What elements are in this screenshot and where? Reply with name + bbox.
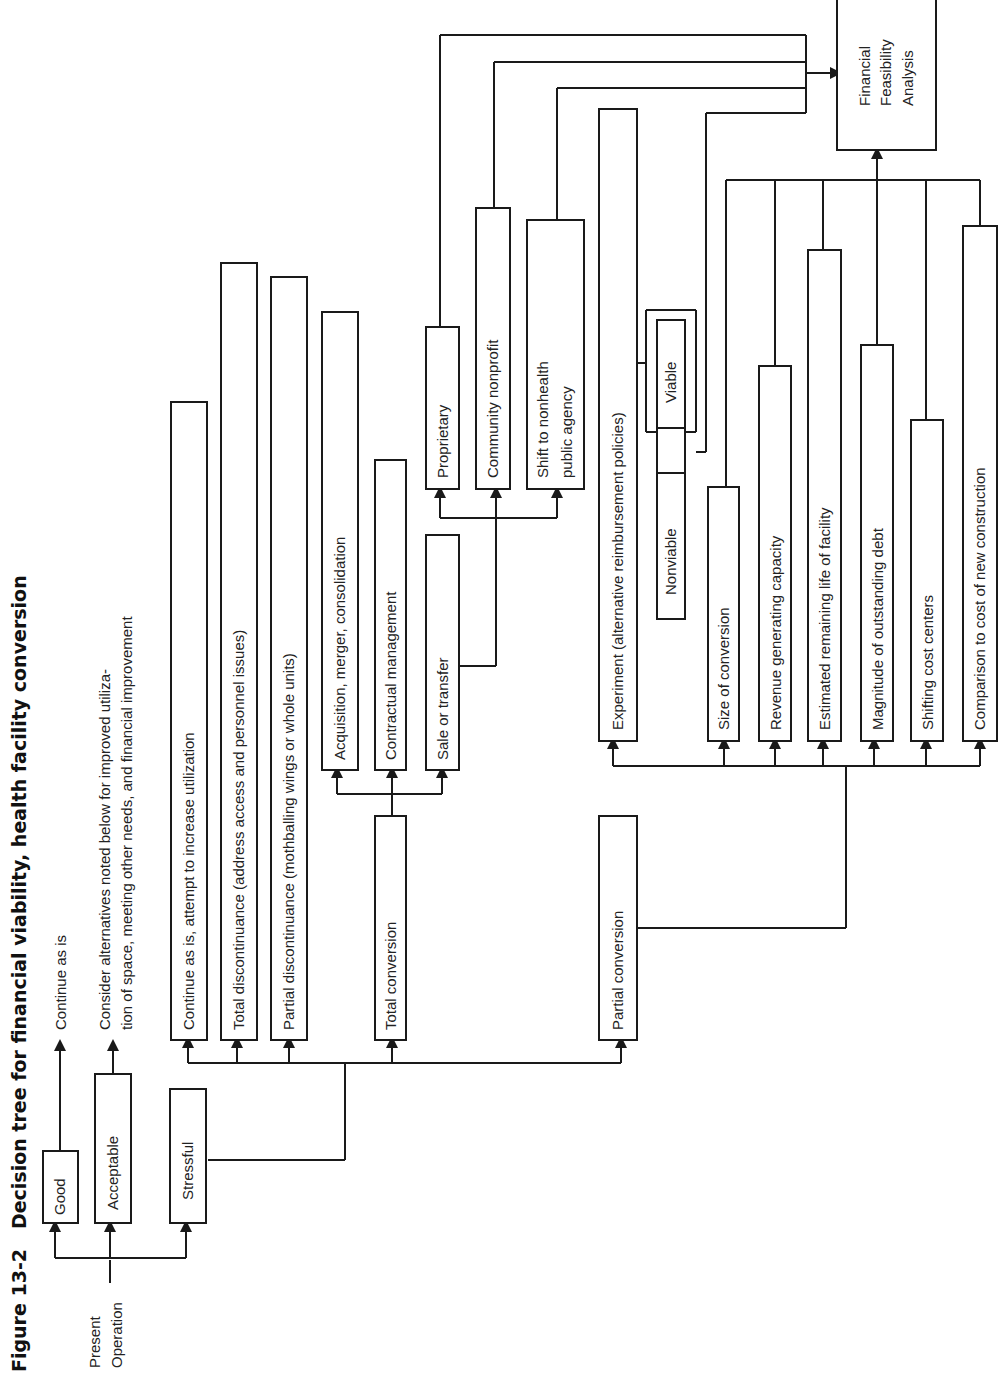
node-size-label: Size of conversion bbox=[715, 607, 733, 730]
node-experiment-label: Experiment (alternative reimbursement po… bbox=[609, 412, 627, 730]
node-cost-centers-label: Shifting cost centers bbox=[919, 595, 937, 730]
node-acquisition-label: Acquisition, merger, consolidation bbox=[331, 537, 349, 760]
node-debt-label: Magnitude of outstanding debt bbox=[869, 528, 887, 730]
node-total-discontinuance-label: Total discontinuance (address access and… bbox=[230, 630, 248, 1030]
node-community-label: Community nonprofit bbox=[484, 340, 502, 478]
acceptable-outcome-line1: Consider alternatives noted below for im… bbox=[96, 669, 114, 1030]
node-shift-label-line1: Shift to nonhealth bbox=[534, 361, 552, 478]
node-comparison-label: Comparison to cost of new construction bbox=[971, 467, 989, 730]
figure-title: Figure 13-2 Decision tree for financial … bbox=[8, 575, 30, 1372]
root-label-line1: Present bbox=[86, 1316, 104, 1368]
node-stressful-label: Stressful bbox=[179, 1142, 197, 1200]
node-continue-label: Continue as is, attempt to increase util… bbox=[180, 732, 198, 1030]
final-label-line3: Analysis bbox=[899, 50, 917, 106]
node-viable-label: Viable bbox=[662, 362, 680, 403]
node-total-conversion-label: Total conversion bbox=[382, 922, 400, 1030]
node-proprietary-label: Proprietary bbox=[434, 405, 452, 478]
final-label-line2: Feasibility bbox=[877, 39, 895, 106]
node-nonviable-label: Nonviable bbox=[662, 528, 680, 595]
node-good-label: Good bbox=[51, 1178, 69, 1215]
root-label-line2: Operation bbox=[108, 1302, 126, 1368]
node-shift-label-line2: public agency bbox=[558, 386, 576, 478]
node-sale-label: Sale or transfer bbox=[434, 657, 452, 760]
decision-tree-diagram: Figure 13-2 Decision tree for financial … bbox=[0, 0, 998, 1374]
final-label-line1: Financial bbox=[856, 46, 874, 106]
figure-caption: Decision tree for financial viability, h… bbox=[8, 575, 30, 1229]
node-acceptable-label: Acceptable bbox=[104, 1136, 122, 1210]
node-contractual-label: Contractual management bbox=[382, 592, 400, 760]
acceptable-outcome-line2: tion of space, meeting other needs, and … bbox=[118, 616, 136, 1030]
figure-number: Figure 13-2 bbox=[8, 1249, 30, 1372]
node-revenue-label: Revenue generating capacity bbox=[767, 536, 785, 730]
node-remaining-life-label: Estimated remaining life of facility bbox=[816, 507, 834, 730]
good-outcome-text: Continue as is bbox=[52, 935, 70, 1030]
node-partial-discontinuance-label: Partial discontinuance (mothballing wing… bbox=[280, 653, 298, 1030]
node-partial-conversion-label: Partial conversion bbox=[609, 911, 627, 1030]
